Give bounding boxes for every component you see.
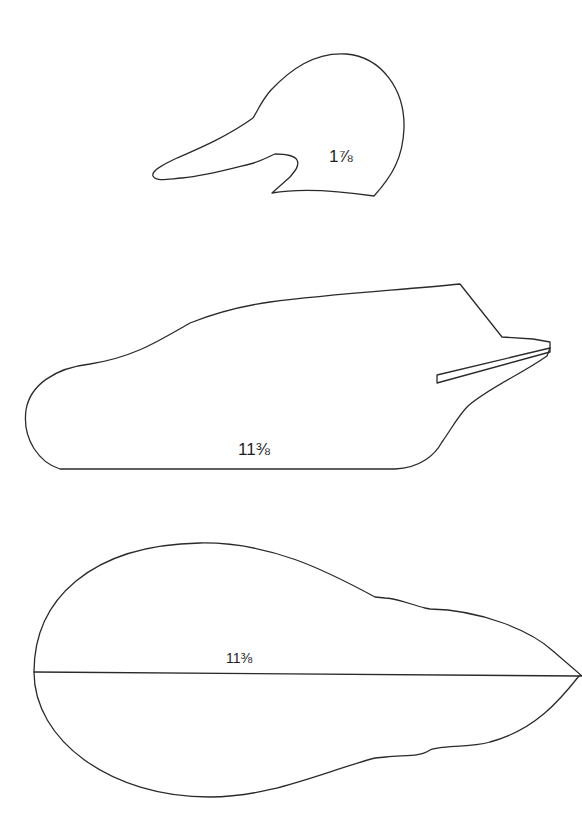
body-side-profile-shape — [25, 284, 550, 469]
side-dimension-label: 11⅜ — [238, 441, 270, 458]
center-line — [34, 672, 579, 676]
head-dimension-label: 1⅞ — [329, 148, 353, 165]
body-top-view-shape — [34, 543, 582, 797]
pattern-drawing — [0, 0, 582, 828]
top-dimension-label: 11⅜ — [226, 651, 252, 665]
decoy-pattern-diagram: 1⅞ 11⅜ 11⅜ — [0, 0, 582, 828]
head-profile-shape — [153, 54, 404, 196]
